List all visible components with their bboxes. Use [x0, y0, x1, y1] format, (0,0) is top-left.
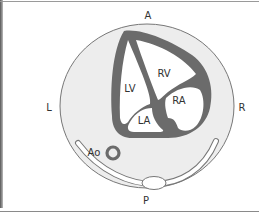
figure-frame: A L R P LV RV RA LA Ao	[0, 0, 259, 221]
label-ra: RA	[172, 95, 186, 106]
label-left: L	[46, 102, 52, 113]
label-rv: RV	[157, 68, 170, 79]
spine-oval	[142, 177, 166, 190]
label-la: LA	[138, 115, 151, 126]
heart-cross-section-diagram: A L R P LV RV RA LA Ao	[0, 0, 259, 221]
label-ao: Ao	[88, 147, 101, 158]
label-anterior: A	[145, 10, 152, 21]
label-posterior: P	[143, 195, 149, 206]
aorta-ring	[107, 147, 119, 159]
label-right: R	[239, 102, 246, 113]
label-lv: LV	[124, 83, 135, 94]
